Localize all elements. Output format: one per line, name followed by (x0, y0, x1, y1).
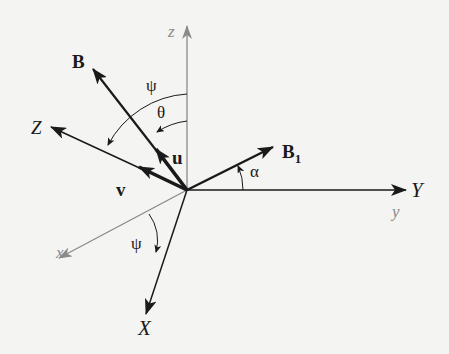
Z-axis-label: Z (31, 118, 42, 137)
B1-vector-label: B1 (282, 142, 301, 165)
theta-arc (157, 121, 187, 132)
x-axis-label: x (56, 244, 64, 261)
Y-axis-label: Y (411, 180, 423, 201)
z-axis-label: z (168, 23, 175, 40)
y-axis-label: y (392, 203, 400, 220)
psi-bottom-arc (149, 214, 158, 252)
alpha-arc (238, 166, 243, 190)
X-axis-label: X (138, 318, 151, 339)
alpha-label: α (250, 163, 259, 180)
diagram-svg (0, 0, 449, 354)
diagram-canvas: z y x Z Y X B B1 u v ψ θ α ψ (0, 0, 449, 354)
psi-bottom-label: ψ (131, 235, 142, 252)
u-vector-label: u (172, 148, 183, 167)
psi-top-label: ψ (146, 77, 157, 94)
B-vector-label: B (72, 52, 85, 71)
theta-label: θ (157, 104, 165, 121)
psi-top-arc (108, 94, 187, 145)
v-vector-label: v (116, 180, 126, 199)
B1-vector (187, 147, 273, 190)
B1-main: B (282, 141, 295, 162)
B1-subscript: 1 (295, 151, 302, 166)
